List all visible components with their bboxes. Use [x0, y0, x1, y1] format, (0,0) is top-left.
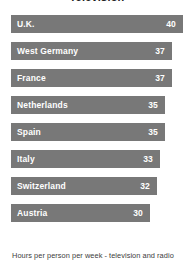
bar-value: 35 [148, 127, 158, 137]
bar-value: 37 [155, 73, 165, 83]
bar-netherlands[interactable]: Netherlands 35 [11, 96, 165, 114]
bar-label: West Germany [17, 46, 78, 56]
bar-label: U.K. [17, 19, 35, 29]
bar-italy[interactable]: Italy 33 [11, 150, 160, 168]
bar-label: France [17, 73, 46, 83]
bar-chart-figure: Television U.K. 40 West Germany 37 Franc… [0, 0, 194, 268]
bar-france[interactable]: France 37 [11, 69, 172, 87]
bar-uk[interactable]: U.K. 40 [11, 15, 183, 33]
bar-value: 40 [166, 19, 176, 29]
bar-value: 33 [143, 154, 153, 164]
bar-label: Netherlands [17, 100, 68, 110]
bar-austria[interactable]: Austria 30 [11, 204, 150, 222]
bar-row: Italy 33 [0, 150, 194, 168]
bar-value: 32 [140, 181, 150, 191]
bar-row: Austria 30 [0, 204, 194, 222]
bar-value: 30 [133, 208, 143, 218]
bar-west-germany[interactable]: West Germany 37 [11, 42, 172, 60]
chart-caption: Hours per person per week - television a… [12, 251, 188, 261]
bar-row: Switzerland 32 [0, 177, 194, 195]
bar-value: 37 [155, 46, 165, 56]
bar-row: West Germany 37 [0, 42, 194, 60]
bar-label: Italy [17, 154, 35, 164]
bar-value: 35 [148, 100, 158, 110]
bar-row: U.K. 40 [0, 15, 194, 33]
bar-spain[interactable]: Spain 35 [11, 123, 165, 141]
bar-label: Spain [17, 127, 41, 137]
bar-row: France 37 [0, 69, 194, 87]
bar-switzerland[interactable]: Switzerland 32 [11, 177, 157, 195]
bar-list: U.K. 40 West Germany 37 France 37 Nether… [0, 15, 194, 241]
bar-label: Switzerland [17, 181, 66, 191]
bar-row: Netherlands 35 [0, 96, 194, 114]
bar-row: Spain 35 [0, 123, 194, 141]
chart-title: Television [0, 0, 194, 4]
bar-label: Austria [17, 208, 47, 218]
